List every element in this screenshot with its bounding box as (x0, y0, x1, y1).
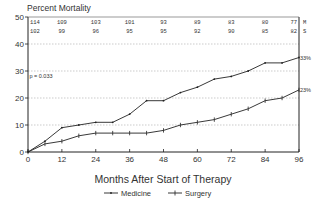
x-tick-label: 60 (193, 155, 202, 164)
risk-table-row-label: M (303, 19, 306, 26)
data-point-medicine (247, 70, 249, 72)
data-point-medicine (95, 121, 97, 123)
risk-table-value: 95 (160, 28, 167, 35)
y-tick-label: 40 (15, 40, 24, 49)
data-point-medicine (230, 76, 232, 78)
risk-table-value: 93 (160, 19, 167, 26)
end-label-surgery: 23% (300, 87, 311, 93)
risk-table-value: 114 (30, 19, 41, 26)
y-axis-ticks: 01020304050 (15, 13, 28, 157)
series-line-surgery (28, 90, 299, 152)
data-point-medicine (112, 121, 114, 123)
data-point-medicine (163, 100, 165, 102)
risk-table-value: 85 (262, 28, 269, 35)
legend-item-surgery: Surgery (168, 189, 212, 198)
risk-table-value: 99 (59, 28, 66, 35)
data-point-medicine (264, 62, 266, 64)
legend-label: Surgery (185, 189, 212, 198)
y-tick-label: 50 (15, 13, 24, 22)
x-axis-label: Months After Start of Therapy (95, 173, 233, 185)
risk-table-value: 95 (126, 28, 133, 35)
series-line-medicine (28, 58, 299, 153)
data-point-medicine (129, 113, 131, 115)
legend: MedicineSurgery (104, 189, 212, 198)
data-point-medicine (146, 100, 148, 102)
x-tick-label: 24 (91, 155, 100, 164)
data-point-medicine (281, 62, 283, 64)
risk-table: 1141091031019389838077M10299969595929085… (30, 19, 307, 35)
data-point-medicine (213, 78, 215, 80)
x-tick-label: 12 (57, 155, 66, 164)
data-point-medicine (180, 92, 182, 94)
risk-table-value: 96 (92, 28, 99, 35)
gridlines (28, 44, 299, 125)
risk-table-value: 80 (262, 19, 269, 26)
risk-table-value: 102 (30, 28, 40, 35)
x-tick-label: 48 (159, 155, 168, 164)
risk-table-value: 89 (194, 19, 201, 26)
y-tick-label: 10 (15, 121, 24, 130)
end-labels: 33%23% (300, 55, 311, 93)
risk-table-value: 77 (290, 19, 297, 26)
risk-table-value: 92 (194, 28, 201, 35)
end-label-medicine: 33% (300, 55, 311, 61)
x-tick-label: 0 (26, 155, 31, 164)
legend-item-medicine: Medicine (104, 189, 151, 198)
annotations: p = 0.033 (29, 73, 52, 79)
risk-table-value: 103 (91, 19, 101, 26)
x-tick-label: 36 (125, 155, 134, 164)
y-tick-label: 20 (15, 94, 24, 103)
x-tick-label: 72 (227, 155, 236, 164)
legend-label: Medicine (121, 189, 151, 198)
x-tick-label: 84 (261, 155, 270, 164)
data-point-medicine (61, 127, 63, 129)
data-point-medicine (78, 124, 80, 126)
data-point-medicine (196, 86, 198, 88)
risk-table-value: 82 (290, 28, 297, 35)
y-tick-label: 0 (20, 148, 25, 157)
p-value-annotation: p = 0.033 (29, 73, 52, 79)
y-tick-label: 30 (15, 67, 24, 76)
risk-table-value: 90 (228, 28, 235, 35)
chart-title: Percent Mortality (27, 3, 92, 13)
mortality-chart: Percent Mortality 01020304050 0122436486… (0, 0, 321, 207)
risk-table-row-label: S (303, 28, 307, 35)
risk-table-value: 83 (228, 19, 235, 26)
x-tick-label: 96 (295, 155, 304, 164)
risk-table-value: 109 (57, 19, 67, 26)
x-axis-ticks: 01224364860728496 (26, 149, 304, 164)
risk-table-value: 101 (125, 19, 136, 26)
legend-marker (110, 192, 112, 194)
